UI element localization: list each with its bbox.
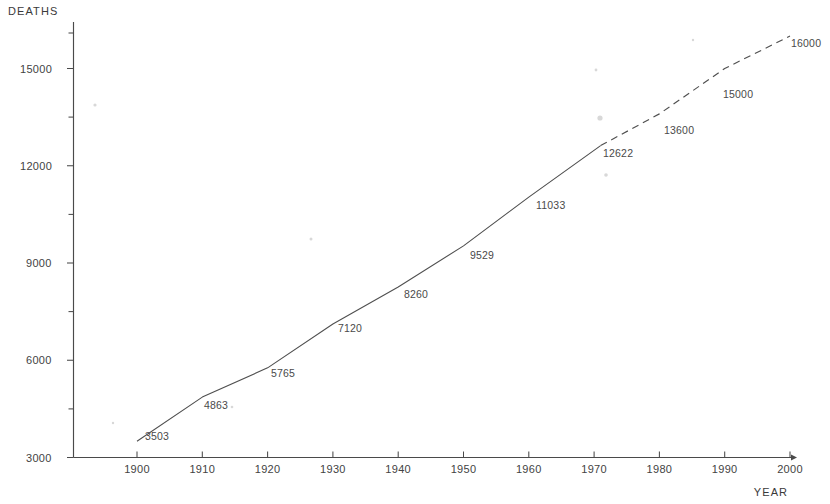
deaths-by-year-line-chart: DEATHS 3000 6000 9000 12000 15000 — [0, 0, 830, 504]
y-tick-label-12000: 12000 — [20, 160, 52, 172]
point-label-1990: 15000 — [723, 88, 753, 100]
y-tick-label-3000: 3000 — [26, 452, 52, 464]
x-tick-label-1980: 1980 — [647, 463, 673, 475]
y-tick-label-15000: 15000 — [20, 63, 52, 75]
y-tick-label-6000: 6000 — [26, 354, 52, 366]
y-axis-title: DEATHS — [8, 5, 58, 17]
point-label-1971: 12622 — [603, 147, 633, 159]
point-label-1960: 11033 — [536, 199, 565, 211]
x-axis-title: YEAR — [754, 486, 788, 498]
x-tick-label-1930: 1930 — [320, 463, 346, 475]
chart-background — [0, 0, 830, 504]
point-label-1920: 5765 — [271, 367, 295, 379]
point-label-1940: 8260 — [404, 288, 428, 300]
x-tick-label-1910: 1910 — [189, 463, 215, 475]
point-label-2000: 16000 — [791, 37, 821, 49]
point-label-1910: 4863 — [204, 399, 228, 411]
x-tick-label-1990: 1990 — [712, 463, 738, 475]
x-tick-label-1900: 1900 — [124, 463, 150, 475]
x-tick-label-1970: 1970 — [581, 463, 607, 475]
point-label-1980: 13600 — [664, 124, 694, 136]
x-tick-label-1920: 1920 — [255, 463, 281, 475]
y-tick-label-9000: 9000 — [26, 257, 52, 269]
point-label-1950: 9529 — [470, 249, 494, 261]
x-tick-label-2000: 2000 — [777, 463, 803, 475]
x-tick-label-1940: 1940 — [385, 463, 411, 475]
x-tick-label-1960: 1960 — [516, 463, 542, 475]
chart-screenshot: DEATHS 3000 6000 9000 12000 15000 — [0, 0, 830, 504]
x-tick-label-1950: 1950 — [451, 463, 477, 475]
point-label-1900: 3503 — [145, 430, 169, 442]
point-label-1930: 7120 — [338, 322, 362, 334]
